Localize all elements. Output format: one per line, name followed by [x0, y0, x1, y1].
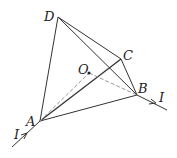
dashed-OB — [89, 73, 137, 95]
edge-CB — [121, 59, 137, 95]
label-A: A — [25, 114, 35, 129]
edge-AB — [40, 95, 137, 121]
label-O: O — [78, 62, 89, 77]
tetrahedron-diagram: D C O B A I I — [0, 0, 177, 158]
label-I-out: I — [158, 90, 165, 105]
label-I-in: I — [13, 127, 20, 142]
label-C: C — [123, 48, 133, 63]
label-B: B — [137, 81, 148, 96]
label-D: D — [43, 9, 55, 24]
edge-DC — [58, 17, 121, 59]
